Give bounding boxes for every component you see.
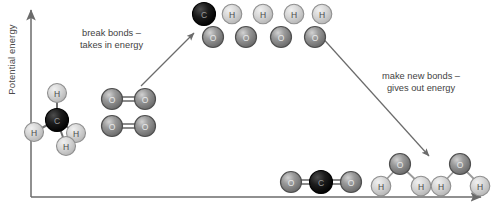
atom-label-oxygen: O <box>210 33 217 43</box>
separated-atoms-bottom-row: O O O O <box>203 27 326 48</box>
atom-hydrogen: H <box>411 176 431 196</box>
atom-oxygen: O <box>135 116 156 137</box>
atom-label-carbon: C <box>318 178 324 188</box>
molecule-oxygen: O O <box>102 89 156 110</box>
molecule-carbon-dioxide: O O C <box>281 171 362 194</box>
atom-oxygen: O <box>305 27 326 48</box>
atom-hydrogen: H <box>284 4 304 24</box>
energy-diagram: Potential energy break bonds – takes in … <box>0 0 493 212</box>
atom-label-oxygen: O <box>457 160 464 170</box>
atom-label-oxygen: O <box>142 95 149 105</box>
diagram-canvas: H H H H C O <box>0 0 493 212</box>
molecule-methane: H H H H C <box>25 84 86 156</box>
atom-oxygen: O <box>450 154 471 175</box>
atom-carbon: C <box>193 3 216 26</box>
molecule-water: H H O <box>431 154 490 196</box>
atom-hydrogen: H <box>253 4 273 24</box>
atom-label-hydrogen: H <box>31 128 37 138</box>
atom-hydrogen: H <box>312 4 332 24</box>
molecule-water: H H O <box>371 154 431 196</box>
atom-hydrogen: H <box>371 176 391 196</box>
atom-oxygen: O <box>203 27 224 48</box>
atom-oxygen: O <box>135 89 156 110</box>
atom-label-hydrogen: H <box>477 182 483 192</box>
atom-label-hydrogen: H <box>54 89 60 99</box>
molecule-oxygen: O O <box>102 116 156 137</box>
atom-hydrogen: H <box>25 123 44 142</box>
atom-label-oxygen: O <box>348 178 355 188</box>
transition-arrow-down <box>319 34 429 156</box>
atom-label-hydrogen: H <box>438 182 444 192</box>
atom-label-hydrogen: H <box>291 10 297 20</box>
atom-label-oxygen: O <box>312 33 319 43</box>
atom-oxygen: O <box>102 116 123 137</box>
atom-oxygen: O <box>271 27 292 48</box>
atom-label-oxygen: O <box>397 160 404 170</box>
atom-hydrogen: H <box>222 4 242 24</box>
atom-label-hydrogen: H <box>319 10 325 20</box>
atom-label-oxygen: O <box>278 33 285 43</box>
atom-label-oxygen: O <box>288 178 295 188</box>
atom-label-oxygen: O <box>243 33 250 43</box>
atom-oxygen: O <box>341 172 362 193</box>
atom-hydrogen: H <box>470 176 490 196</box>
atom-label-carbon: C <box>201 10 207 20</box>
atom-carbon: C <box>46 109 69 132</box>
atom-label-oxygen: O <box>109 95 116 105</box>
atom-oxygen: O <box>102 89 123 110</box>
transition-arrow-up <box>141 33 194 86</box>
atom-label-hydrogen: H <box>229 10 235 20</box>
atom-label-oxygen: O <box>142 122 149 132</box>
atom-oxygen: O <box>281 172 302 193</box>
atom-label-oxygen: O <box>109 122 116 132</box>
atom-label-hydrogen: H <box>378 182 384 192</box>
atom-label-carbon: C <box>54 116 60 126</box>
atom-hydrogen: H <box>57 137 76 156</box>
atom-oxygen: O <box>236 27 257 48</box>
separated-atoms-top-row: C H H H H <box>193 3 332 26</box>
atom-hydrogen: H <box>48 84 67 103</box>
atom-label-hydrogen: H <box>418 182 424 192</box>
atom-label-hydrogen: H <box>63 142 69 152</box>
atom-carbon: C <box>310 171 333 194</box>
atom-oxygen: O <box>390 154 411 175</box>
atom-hydrogen: H <box>431 176 451 196</box>
atom-label-hydrogen: H <box>73 129 79 139</box>
atom-label-hydrogen: H <box>260 10 266 20</box>
